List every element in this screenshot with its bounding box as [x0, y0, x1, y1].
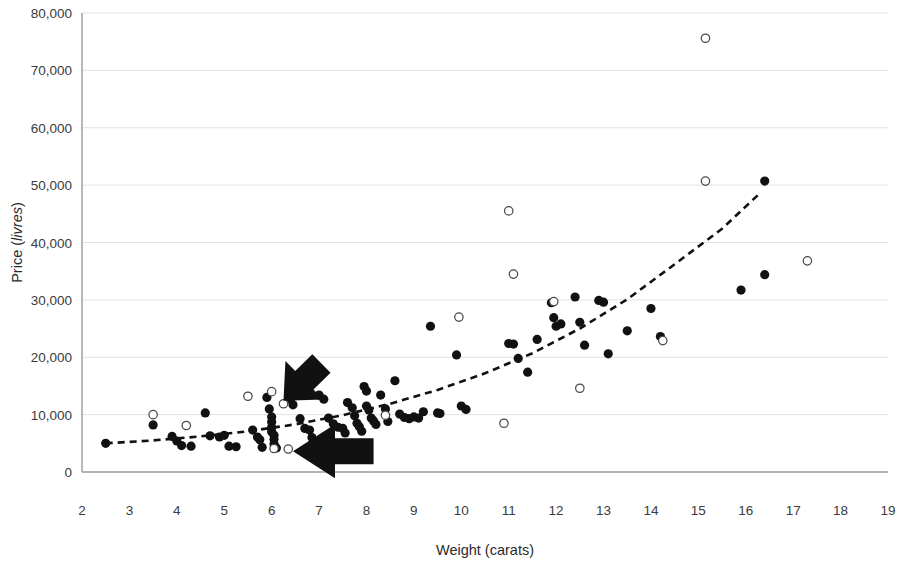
- data-point-filled: [461, 405, 470, 414]
- data-point-open: [244, 392, 252, 400]
- x-axis-tick-label: 17: [786, 503, 801, 518]
- data-point-filled: [341, 428, 350, 437]
- x-axis-tick-label: 12: [549, 503, 564, 518]
- data-point-filled: [288, 400, 297, 409]
- data-point-filled: [509, 339, 518, 348]
- x-axis-tick-label: 19: [880, 503, 895, 518]
- data-point-filled: [604, 349, 613, 358]
- y-axis-tick-label: 70,000: [31, 63, 72, 78]
- data-point-filled: [364, 405, 373, 414]
- data-points-group: [101, 34, 811, 453]
- data-point-open: [284, 445, 292, 453]
- data-point-filled: [556, 319, 565, 328]
- trendline: [106, 193, 760, 443]
- y-axis-title: Price (livres): [9, 202, 25, 283]
- y-axis-tick-label: 50,000: [31, 178, 72, 193]
- x-axis-tick-label: 6: [268, 503, 276, 518]
- x-axis-tick-label: 16: [738, 503, 753, 518]
- x-axis-tick-label: 5: [220, 503, 228, 518]
- data-point-filled: [205, 431, 214, 440]
- x-axis-tick-label: 2: [78, 503, 86, 518]
- gridlines-group: [82, 13, 888, 415]
- data-point-open: [279, 400, 287, 408]
- data-point-filled: [435, 409, 444, 418]
- data-point-open: [267, 387, 275, 395]
- data-point-filled: [623, 326, 632, 335]
- x-axis-tick-label: 8: [363, 503, 371, 518]
- data-point-filled: [101, 439, 110, 448]
- x-axis-tick-label: 11: [502, 503, 516, 518]
- y-axis-tick-label: 40,000: [31, 236, 72, 251]
- data-point-filled: [523, 368, 532, 377]
- data-point-open: [149, 410, 157, 418]
- data-point-open: [701, 34, 709, 42]
- data-point-open: [576, 384, 584, 392]
- data-point-filled: [575, 318, 584, 327]
- x-axis-tick-label: 13: [596, 503, 611, 518]
- y-axis-ticks-group: 010,00020,00030,00040,00050,00060,00070,…: [31, 6, 72, 480]
- data-point-filled: [760, 177, 769, 186]
- data-point-filled: [426, 322, 435, 331]
- data-point-filled: [419, 407, 428, 416]
- data-point-filled: [599, 298, 608, 307]
- data-point-filled: [231, 442, 240, 451]
- data-point-filled: [295, 414, 304, 423]
- data-point-filled: [452, 350, 461, 359]
- data-point-filled: [514, 354, 523, 363]
- data-point-filled: [646, 304, 655, 313]
- data-point-open: [455, 313, 463, 321]
- data-point-open: [500, 419, 508, 427]
- x-axis-ticks-group: 2345678910111213141516171819: [78, 503, 895, 518]
- y-axis-tick-label: 30,000: [31, 293, 72, 308]
- data-point-filled: [357, 427, 366, 436]
- data-point-filled: [376, 391, 385, 400]
- data-point-filled: [348, 403, 357, 412]
- x-axis-tick-label: 15: [691, 503, 706, 518]
- trendline-path: [106, 193, 760, 443]
- data-point-filled: [177, 441, 186, 450]
- data-point-open: [659, 336, 667, 344]
- data-point-filled: [186, 442, 195, 451]
- data-point-filled: [580, 341, 589, 350]
- data-point-open: [550, 297, 558, 305]
- x-axis-tick-label: 14: [643, 503, 659, 518]
- data-point-open: [270, 444, 278, 452]
- data-point-filled: [570, 292, 579, 301]
- y-axis-tick-label: 10,000: [31, 408, 72, 423]
- data-point-filled: [549, 313, 558, 322]
- x-axis-tick-label: 18: [833, 503, 848, 518]
- data-point-filled: [736, 286, 745, 295]
- x-axis-title: Weight (carats): [436, 542, 534, 558]
- x-axis-tick-label: 10: [454, 503, 469, 518]
- data-point-filled: [201, 408, 210, 417]
- data-point-open: [509, 270, 517, 278]
- y-axis-tick-label: 60,000: [31, 121, 72, 136]
- chart-canvas: 010,00020,00030,00040,00050,00060,00070,…: [0, 0, 906, 564]
- data-point-filled: [362, 387, 371, 396]
- data-point-open: [701, 177, 709, 185]
- y-axis-tick-label: 80,000: [31, 6, 72, 21]
- data-point-filled: [371, 420, 380, 429]
- data-point-filled: [390, 376, 399, 385]
- x-axis-tick-label: 4: [173, 503, 181, 518]
- data-point-filled: [258, 443, 267, 452]
- x-axis-tick-label: 3: [126, 503, 134, 518]
- data-point-open: [505, 207, 513, 215]
- data-point-filled: [533, 335, 542, 344]
- x-axis-tick-label: 7: [315, 503, 323, 518]
- y-axis-tick-label: 0: [64, 465, 72, 480]
- data-point-open: [182, 421, 190, 429]
- data-point-open: [381, 411, 389, 419]
- data-point-filled: [760, 270, 769, 279]
- data-point-open: [803, 257, 811, 265]
- x-axis-tick-label: 9: [410, 503, 418, 518]
- scatter-chart: 010,00020,00030,00040,00050,00060,00070,…: [0, 0, 906, 564]
- data-point-filled: [220, 431, 229, 440]
- y-axis-tick-label: 20,000: [31, 350, 72, 365]
- data-point-filled: [265, 404, 274, 413]
- data-point-filled: [149, 420, 158, 429]
